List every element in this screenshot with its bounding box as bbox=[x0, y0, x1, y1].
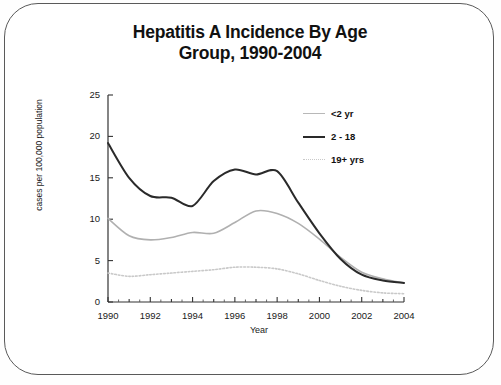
legend-swatch bbox=[303, 136, 325, 138]
x-axis-tick-label: 1992 bbox=[130, 310, 170, 321]
chart-page: Hepatitis A Incidence By Age Group, 1990… bbox=[0, 0, 501, 385]
x-axis-tick-label: 1990 bbox=[88, 310, 128, 321]
x-axis-tick-label: 1994 bbox=[173, 310, 213, 321]
x-axis-label: Year bbox=[108, 325, 410, 335]
x-axis-tick-label: 2002 bbox=[342, 310, 382, 321]
x-axis-tick-label: 1996 bbox=[215, 310, 255, 321]
series-line-2-yr bbox=[108, 210, 404, 282]
legend-label: 2 - 18 bbox=[331, 131, 355, 142]
y-axis-tick-label: 20 bbox=[76, 130, 100, 141]
legend-swatch bbox=[303, 159, 325, 160]
y-axis-label: cases per 100,000 population bbox=[34, 70, 44, 240]
y-axis-tick-label: 10 bbox=[76, 213, 100, 224]
y-axis-tick-label: 15 bbox=[76, 172, 100, 183]
plot-area: cases per 100,000 population Year 051015… bbox=[0, 0, 501, 385]
x-axis-tick-label: 1998 bbox=[257, 310, 297, 321]
legend-label: <2 yr bbox=[331, 108, 353, 119]
y-axis-tick-label: 0 bbox=[76, 296, 100, 307]
legend-label: 19+ yrs bbox=[331, 154, 364, 165]
x-axis-tick-label: 2000 bbox=[299, 310, 339, 321]
y-axis-tick-label: 5 bbox=[76, 255, 100, 266]
y-axis-tick-label: 25 bbox=[76, 89, 100, 100]
legend-swatch bbox=[303, 113, 325, 114]
x-axis-tick-label: 2004 bbox=[384, 310, 424, 321]
